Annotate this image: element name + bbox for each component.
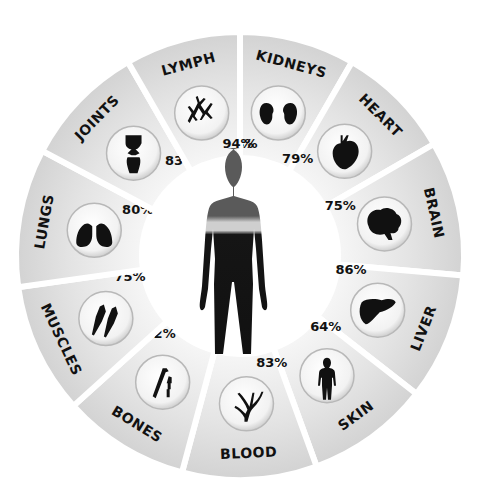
icon-badge: [251, 86, 305, 140]
icon-badge: [175, 86, 229, 140]
human-silhouette-icon: [200, 148, 268, 354]
organ-wheel-diagram: KIDNEYS83%HEART79%BRAIN75%LIVER86%SKIN64…: [0, 0, 478, 502]
percentage-value: 79%: [282, 151, 313, 166]
organ-label: BLOOD: [220, 444, 278, 462]
percentage-value: 83%: [256, 355, 287, 370]
percentage-value: 64%: [310, 319, 341, 334]
percentage-value: 75%: [325, 198, 356, 213]
icon-badge: [136, 355, 190, 409]
icon-badge: [67, 203, 121, 257]
percentage-value: 94%: [222, 136, 253, 151]
percentage-value: 86%: [335, 262, 366, 277]
